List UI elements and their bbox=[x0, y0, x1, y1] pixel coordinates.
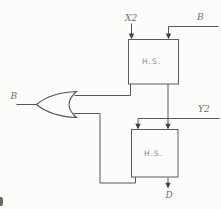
logic-schematic-svg: X2 B Y2 B D H.S. H.S. bbox=[0, 0, 221, 209]
wire-y2-input bbox=[138, 119, 220, 125]
label-b-output: B bbox=[10, 91, 18, 101]
label-y2: Y2 bbox=[198, 104, 210, 114]
arrowhead-diff-icon bbox=[165, 124, 170, 130]
wire-b-input bbox=[169, 27, 219, 35]
circuit-diagram: X2 B Y2 B D H.S. H.S. bbox=[0, 0, 221, 209]
hs-bottom-label: H.S. bbox=[144, 149, 163, 158]
label-x2: X2 bbox=[124, 13, 137, 23]
wire-hs-top-borrow-to-or bbox=[75, 84, 131, 96]
or-gate-icon bbox=[37, 92, 77, 118]
label-b-input: B bbox=[196, 12, 204, 22]
arrowhead-y2-icon bbox=[135, 124, 140, 130]
arrowhead-d-out-icon bbox=[165, 183, 170, 189]
arrowhead-b-in-icon bbox=[166, 33, 171, 39]
hs-top-label: H.S. bbox=[142, 57, 161, 66]
label-d-output: D bbox=[165, 190, 173, 200]
wire-hs-bottom-borrow-to-or bbox=[74, 114, 136, 184]
arrowhead-x2-icon bbox=[129, 33, 134, 39]
scan-artifact bbox=[0, 197, 3, 206]
